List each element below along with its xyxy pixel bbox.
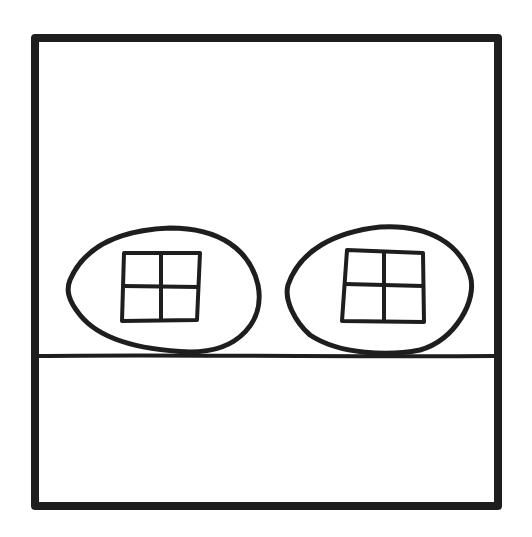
right-window-icon: [342, 250, 424, 322]
right-egg-outline: [287, 227, 471, 354]
caption: [40, 530, 500, 537]
left-window-icon: [122, 253, 200, 321]
line-drawing: [0, 0, 532, 537]
left-egg-outline: [68, 228, 259, 352]
outer-frame: [35, 38, 498, 506]
right-egg-house: [287, 227, 471, 354]
left-egg-house: [68, 228, 259, 352]
ground-line: [38, 355, 494, 356]
